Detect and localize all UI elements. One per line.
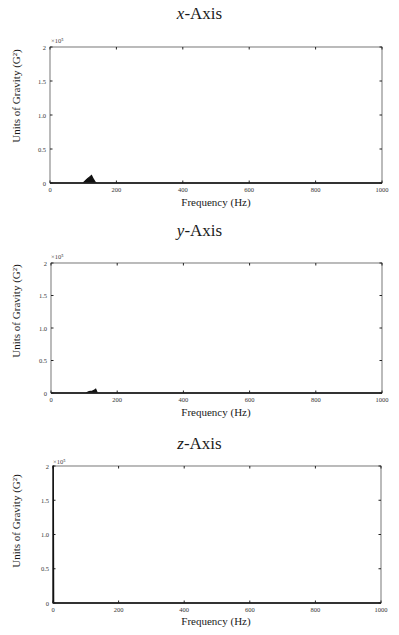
y-tick-label: 2 — [46, 463, 49, 470]
x-tick-label: 1000 — [376, 396, 389, 403]
y-tick-label: 1.0 — [38, 112, 46, 119]
data-series — [50, 176, 382, 184]
x-tick-label: 400 — [179, 396, 189, 403]
x-tick-label: 400 — [178, 186, 188, 193]
plot-frame — [50, 47, 382, 183]
x-tick-label: 200 — [114, 606, 124, 613]
x-tick-label: 800 — [311, 606, 321, 613]
x-tick-label: 0 — [49, 396, 52, 403]
x-tick-label: 0 — [51, 606, 54, 613]
x-axis-label: Frequency (Hz) — [50, 615, 382, 627]
y-tick-label: 2 — [44, 260, 47, 267]
x-tick-label: 800 — [311, 186, 321, 193]
x-tick-label: 200 — [112, 186, 122, 193]
x-tick-label: 200 — [112, 396, 122, 403]
y-tick-label: 0 — [43, 180, 46, 187]
y-tick-label: 0.5 — [39, 357, 47, 364]
x-axis-label: Frequency (Hz) — [50, 196, 382, 208]
x-tick-label: 400 — [179, 606, 189, 613]
x-tick-label: 600 — [245, 606, 255, 613]
data-series — [53, 466, 381, 603]
y-tick-label: 1.0 — [41, 531, 49, 538]
y-tick-label: 1.5 — [41, 497, 49, 504]
plot-area: 0200400600800100000.51.01.52 — [0, 217, 399, 429]
y-tick-label: 0.5 — [41, 565, 49, 572]
y-tick-label: 0.5 — [38, 146, 46, 153]
plot-area: 0200400600800100000.51.01.52 — [0, 430, 399, 635]
y-tick-label: 0 — [46, 600, 49, 607]
chart-panel-x: x-Axis ×10⁵ Units of Gravity (G²) 020040… — [0, 0, 399, 212]
x-tick-label: 800 — [311, 396, 321, 403]
chart-panel-y: y-Axis ×10⁵ Units of Gravity (G²) 020040… — [0, 217, 399, 429]
x-tick-label: 600 — [245, 396, 255, 403]
y-tick-label: 2 — [43, 44, 46, 51]
y-tick-label: 1.5 — [38, 78, 46, 85]
x-tick-label: 1000 — [376, 186, 389, 193]
y-tick-label: 1.5 — [39, 292, 47, 299]
x-tick-label: 1000 — [375, 606, 388, 613]
plot-frame — [51, 263, 382, 393]
y-tick-label: 0 — [44, 390, 47, 397]
x-tick-label: 600 — [244, 186, 254, 193]
plot-area: 0200400600800100000.51.01.52 — [0, 0, 399, 212]
plot-frame — [53, 466, 381, 603]
chart-panel-z: z-Axis ×10⁵ Units of Gravity (G²) 020040… — [0, 430, 399, 635]
x-tick-label: 0 — [48, 186, 51, 193]
x-axis-label: Frequency (Hz) — [50, 406, 382, 418]
y-tick-label: 1.0 — [39, 325, 47, 332]
